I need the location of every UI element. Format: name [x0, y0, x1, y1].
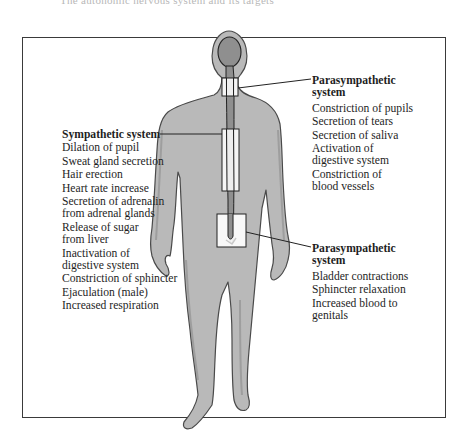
list-item: Dilation of pupil [62, 142, 232, 154]
region-box-neck [222, 78, 238, 96]
list-item-continued: digestive system [312, 155, 452, 167]
list-item: Ejaculation (male) [62, 287, 232, 299]
list-item: Secretion of saliva [312, 130, 452, 142]
sympathetic-label: Sympathetic system Dilation of pupil Swe… [62, 129, 232, 313]
list-item: Constriction of pupils [312, 103, 452, 115]
list-item: Hair erection [62, 169, 232, 181]
sympathetic-heading: Sympathetic system [62, 129, 232, 141]
list-item-continued: blood vessels [312, 181, 452, 193]
parasympathetic-top-heading-2: system [312, 87, 452, 99]
list-item: Increased respiration [62, 300, 232, 312]
parasympathetic-bottom-label: Parasympathetic system Bladder contracti… [312, 243, 452, 322]
list-item: Secretion of tears [312, 116, 452, 128]
list-item: Heart rate increase [62, 183, 232, 195]
list-item: Sphincter relaxation [312, 284, 452, 296]
list-item-continued: genitals [312, 310, 452, 322]
list-item-continued: digestive system [62, 260, 232, 272]
leader-line-parasympathetic-top [238, 79, 311, 88]
list-item-continued: from adrenal glands [62, 208, 232, 220]
brain-icon [218, 37, 241, 67]
list-item: Constriction of sphincter [62, 273, 232, 285]
parasympathetic-bottom-heading-2: system [312, 255, 452, 267]
list-item: Sweat gland secretion [62, 156, 232, 168]
list-item: Bladder contractions [312, 271, 452, 283]
list-item-continued: from liver [62, 234, 232, 246]
parasympathetic-top-label: Parasympathetic system Constriction of p… [312, 75, 452, 194]
